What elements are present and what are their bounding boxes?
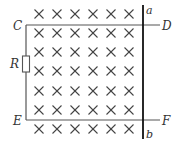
field-cross-icon bbox=[89, 29, 98, 38]
label-D: D bbox=[161, 19, 172, 33]
field-cross-icon bbox=[125, 48, 134, 57]
field-cross-icon bbox=[35, 125, 44, 134]
field-cross-icon bbox=[107, 10, 116, 19]
field-cross-icon bbox=[125, 67, 134, 76]
label-E: E bbox=[12, 114, 22, 128]
field-cross-icon bbox=[53, 67, 62, 76]
field-cross-icon bbox=[107, 106, 116, 115]
field-cross-icon bbox=[35, 106, 44, 115]
field-cross-icon bbox=[125, 87, 134, 96]
label-R: R bbox=[9, 57, 19, 71]
field-cross-icon bbox=[89, 106, 98, 115]
field-cross-icon bbox=[71, 29, 80, 38]
field-cross-icon bbox=[71, 106, 80, 115]
field-cross-icon bbox=[89, 125, 98, 134]
label-C: C bbox=[13, 19, 22, 33]
field-cross-icon bbox=[125, 106, 134, 115]
field-cross-icon bbox=[71, 10, 80, 19]
label-F: F bbox=[161, 114, 171, 128]
field-cross-icon bbox=[89, 48, 98, 57]
field-cross-icon bbox=[89, 10, 98, 19]
label-a: a bbox=[146, 4, 153, 17]
field-cross-icon bbox=[125, 10, 134, 19]
field-cross-icon bbox=[71, 67, 80, 76]
field-cross-icon bbox=[107, 67, 116, 76]
field-cross-icon bbox=[35, 10, 44, 19]
field-cross-icon bbox=[53, 125, 62, 134]
field-cross-icon bbox=[125, 125, 134, 134]
field-cross-icon bbox=[107, 87, 116, 96]
field-cross-icon bbox=[71, 125, 80, 134]
field-cross-icon bbox=[35, 48, 44, 57]
field-cross-icon bbox=[107, 125, 116, 134]
field-cross-icon bbox=[35, 67, 44, 76]
field-cross-icon bbox=[53, 106, 62, 115]
field-cross-icon bbox=[53, 10, 62, 19]
label-b: b bbox=[146, 128, 153, 141]
circuit-diagram: C D E F a b R bbox=[0, 0, 178, 144]
field-cross-icon bbox=[89, 87, 98, 96]
field-cross-icon bbox=[71, 87, 80, 96]
field-cross-icon bbox=[125, 29, 134, 38]
field-cross-icon bbox=[107, 29, 116, 38]
field-cross-icon bbox=[53, 29, 62, 38]
field-cross-icon bbox=[53, 48, 62, 57]
field-cross-icon bbox=[71, 48, 80, 57]
resistor-R bbox=[23, 56, 30, 72]
field-cross-icon bbox=[53, 87, 62, 96]
field-cross-icon bbox=[35, 29, 44, 38]
magnetic-field-crosses bbox=[35, 10, 134, 134]
field-cross-icon bbox=[89, 67, 98, 76]
field-cross-icon bbox=[35, 87, 44, 96]
field-cross-icon bbox=[107, 48, 116, 57]
